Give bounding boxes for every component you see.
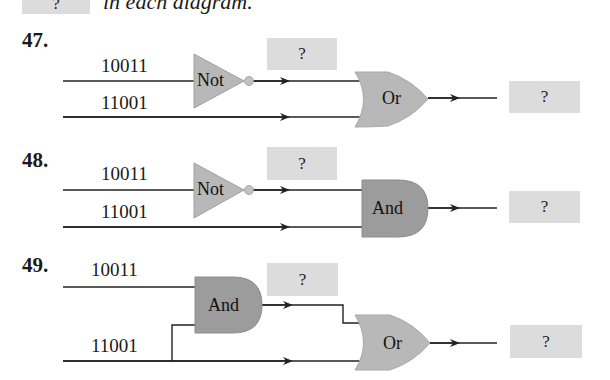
gate1-label-47: Not	[197, 70, 224, 91]
output-answer-47[interactable]: ?	[509, 81, 580, 113]
problem-number-47: 47.	[22, 28, 48, 53]
output-answer-48[interactable]: ?	[509, 191, 580, 223]
input-top-48: 10011	[101, 163, 148, 185]
input-top-49: 10011	[91, 259, 138, 281]
problem-number-49: 49.	[22, 253, 48, 278]
intermediate-answer-48[interactable]: ?	[267, 147, 337, 180]
input-bottom-49: 11001	[91, 335, 138, 357]
problem-number-48: 48.	[22, 148, 48, 173]
input-bottom-47: 11001	[101, 92, 148, 114]
gate2-label-48: And	[372, 198, 403, 219]
input-top-47: 10011	[101, 55, 148, 77]
gate1-label-48: Not	[197, 179, 224, 200]
input-bottom-48: 11001	[101, 201, 148, 223]
intermediate-answer-47[interactable]: ?	[267, 38, 337, 70]
intermediate-answer-49[interactable]: ?	[267, 263, 338, 296]
output-answer-49[interactable]: ?	[510, 325, 582, 358]
gate2-label-47: Or	[382, 88, 401, 109]
gate1-label-49: And	[208, 295, 239, 316]
gate2-label-49: Or	[383, 333, 402, 354]
